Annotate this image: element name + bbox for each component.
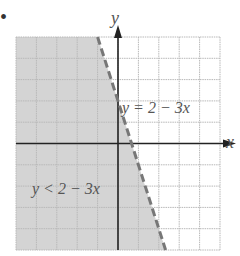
inequality-graph: [0, 0, 240, 256]
boundary-equation-label: y = 2 − 3x: [122, 99, 190, 117]
y-axis-label: y: [111, 8, 119, 29]
figure-marker: •: [0, 6, 7, 29]
x-axis-label: x: [226, 132, 234, 153]
inequality-label: y < 2 − 3x: [32, 180, 100, 198]
